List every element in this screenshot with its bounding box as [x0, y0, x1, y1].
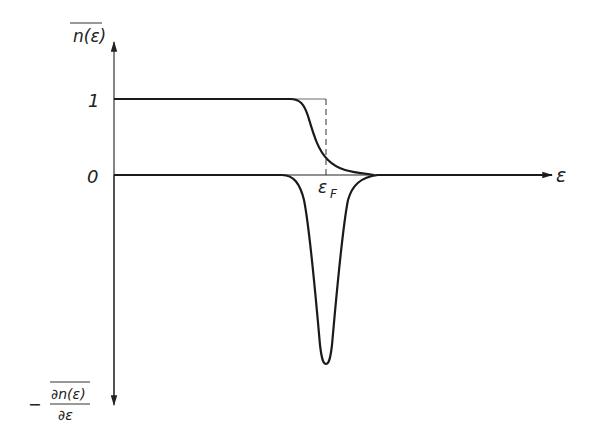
fermi-diagram: n(ε) 1 0 ε F ε − ∂n(ε) ∂ε: [0, 0, 589, 439]
deriv-denominator: ∂ε: [58, 407, 73, 423]
tick-zero: 0: [87, 166, 98, 187]
x-axis-label: ε: [556, 164, 566, 186]
deriv-minus: −: [28, 395, 41, 414]
fermi-label-sub: F: [330, 187, 338, 201]
tick-one: 1: [88, 90, 99, 111]
fermi-label: ε: [318, 177, 327, 197]
fermi-curve: [114, 99, 374, 175]
deriv-numerator: ∂n(ε): [51, 386, 86, 402]
y-top-label: n(ε): [73, 26, 106, 46]
derivative-curve: [114, 175, 552, 364]
